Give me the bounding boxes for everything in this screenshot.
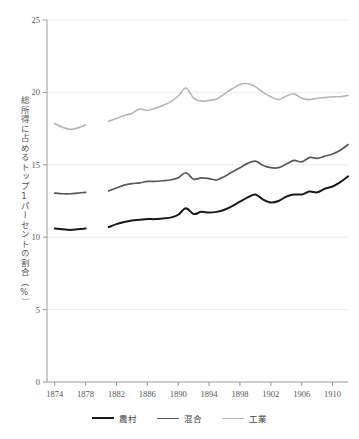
svg-text:1906: 1906 (293, 389, 310, 399)
series-line-農村 (109, 176, 348, 227)
y-axis-ticks: 0510152025 (32, 15, 48, 387)
svg-text:1894: 1894 (201, 389, 219, 399)
legend-item-industrial[interactable]: 工業 (222, 412, 267, 424)
legend-item-mixed[interactable]: 混合 (157, 412, 202, 424)
svg-text:25: 25 (32, 15, 41, 25)
y-axis-title: 総所得に占めるトップ1パーセントの割合（%） (14, 96, 30, 326)
series-line-混合 (55, 192, 86, 194)
svg-text:1902: 1902 (262, 389, 279, 399)
chart-container: 0510152025 18741878188218861890189418981… (0, 0, 359, 439)
legend-swatch-industrial (222, 418, 244, 419)
svg-text:1874: 1874 (46, 389, 64, 399)
svg-text:20: 20 (32, 87, 41, 97)
legend-label-mixed: 混合 (184, 412, 202, 424)
legend-swatch-rural (92, 417, 114, 419)
svg-text:1910: 1910 (324, 389, 341, 399)
svg-text:1878: 1878 (77, 389, 94, 399)
svg-text:1882: 1882 (108, 389, 125, 399)
series-line-混合 (109, 145, 348, 191)
line-chart-plot: 0510152025 18741878188218861890189418981… (0, 0, 359, 439)
legend-swatch-mixed (157, 418, 179, 419)
legend-item-rural[interactable]: 農村 (92, 412, 137, 424)
series-line-農村 (55, 229, 86, 230)
legend-label-industrial: 工業 (249, 412, 267, 424)
svg-text:0: 0 (36, 377, 40, 387)
svg-text:1886: 1886 (139, 389, 156, 399)
svg-text:10: 10 (32, 232, 41, 242)
data-series-group (55, 84, 348, 230)
svg-text:15: 15 (32, 160, 41, 170)
legend-label-rural: 農村 (119, 412, 137, 424)
svg-text:1890: 1890 (170, 389, 187, 399)
gridlines (47, 20, 348, 310)
series-line-工業 (109, 84, 348, 122)
svg-text:1898: 1898 (231, 389, 248, 399)
axis-lines (47, 20, 348, 382)
svg-text:5: 5 (36, 305, 40, 315)
series-line-工業 (55, 124, 86, 130)
chart-legend: 農村 混合 工業 (0, 412, 359, 424)
x-axis-ticks: 1874187818821886189018941898190219061910 (46, 382, 341, 399)
